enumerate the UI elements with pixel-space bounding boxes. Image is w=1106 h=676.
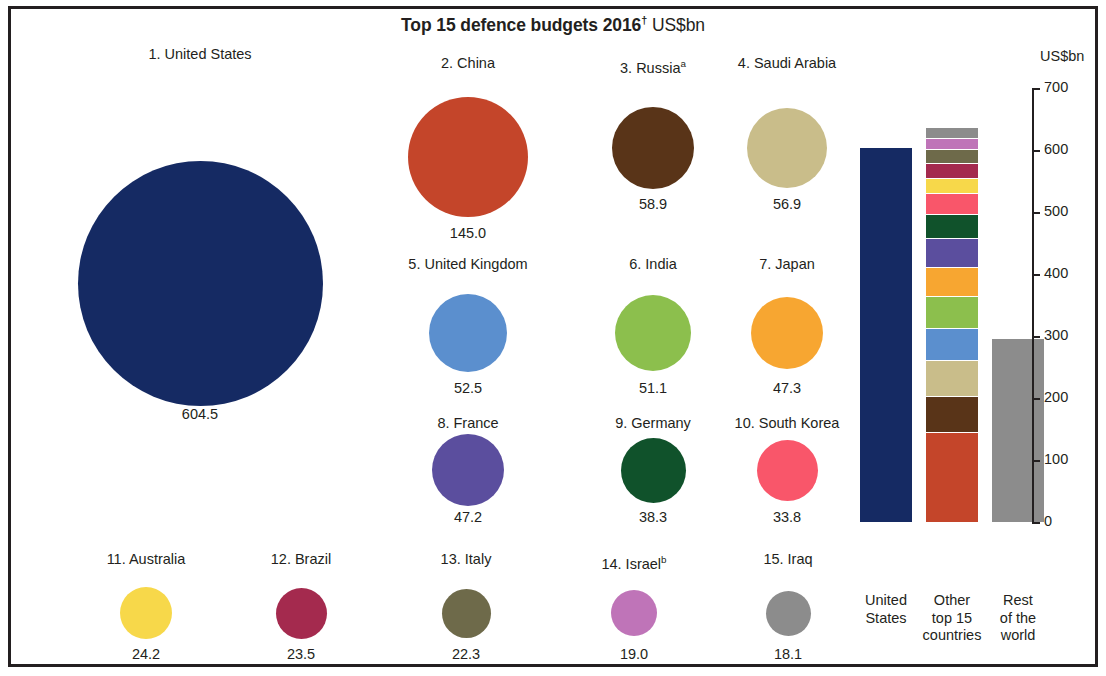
y-axis-tick <box>1032 460 1040 462</box>
bar-caption-line: United <box>854 592 918 610</box>
bar-segment-italy <box>926 149 978 163</box>
border-left-rule <box>8 6 11 667</box>
bubble-value: 51.1 <box>593 380 713 397</box>
y-axis-unit-label: US$bn <box>1040 48 1084 64</box>
bar-caption-line: top 15 <box>920 610 984 628</box>
bubble-circle <box>120 587 172 639</box>
bar-segment-iraq <box>926 127 978 138</box>
bar-segment-brazil <box>926 163 978 178</box>
bar-segment-united-kingdom <box>926 328 978 361</box>
bar-segment-russia <box>926 396 978 433</box>
bar-segment-united-states <box>860 147 912 522</box>
bar-segment-germany <box>926 214 978 238</box>
y-axis-tick <box>1032 88 1040 90</box>
y-axis-tick-label: 300 <box>1044 328 1068 342</box>
bubble-value: 33.8 <box>727 509 847 526</box>
bar-caption-line: Rest <box>986 592 1050 610</box>
bubble-value: 604.5 <box>140 406 260 423</box>
bubble-circle <box>766 591 811 636</box>
bar-segment-israel <box>926 138 978 150</box>
bar-segment-saudi-arabia <box>926 360 978 395</box>
stacked-bar-chart: UnitedStatesOthertop 15countriesRestof t… <box>848 44 1098 644</box>
bubble-circle <box>615 295 691 371</box>
bar-caption-other: Othertop 15countries <box>920 592 984 645</box>
bubble-value: 47.2 <box>408 509 528 526</box>
bar-caption-rest: Restof theworld <box>986 592 1050 645</box>
bubble-value: 18.1 <box>728 646 848 663</box>
bar-caption-us: UnitedStates <box>854 592 918 627</box>
bubble-value: 58.9 <box>593 196 713 213</box>
y-axis-tick-label: 400 <box>1044 266 1068 280</box>
y-axis-tick-label: 500 <box>1044 204 1068 218</box>
y-axis-tick <box>1032 336 1040 338</box>
bubble-value: 47.3 <box>727 380 847 397</box>
chart-title: Top 15 defence budgets 2016† US$bn <box>0 14 1106 36</box>
bubble-circle <box>276 588 327 639</box>
bubble-value: 38.3 <box>593 509 713 526</box>
bubble-circle <box>429 294 507 372</box>
chart-title-unit: US$bn <box>652 15 705 35</box>
bubble-value: 23.5 <box>241 646 361 663</box>
bubble-united-states: 1. United States <box>90 46 310 63</box>
bubble-circle <box>751 297 823 369</box>
bubble-circle <box>78 161 323 406</box>
bubble-value: 22.3 <box>406 646 526 663</box>
bar-caption-line: Other <box>920 592 984 610</box>
bar-segment-south-korea <box>926 193 978 214</box>
bubble-value: 56.9 <box>727 196 847 213</box>
bubble-label: 1. United States <box>90 46 310 63</box>
bubble-circle <box>621 438 686 503</box>
y-axis-line <box>1032 88 1034 522</box>
chart-title-dagger: † <box>641 14 647 26</box>
bar-caption-line: world <box>986 627 1050 645</box>
bar-segment-india <box>926 296 978 328</box>
y-axis-tick-label: 0 <box>1044 514 1052 528</box>
bar-segment-rest-of-the-world <box>992 338 1044 522</box>
bubble-circle <box>442 589 491 638</box>
bubble-circle <box>747 108 827 188</box>
y-axis-tick-label: 200 <box>1044 390 1068 404</box>
footnote-marker: b <box>661 554 666 565</box>
bar-segment-australia <box>926 178 978 193</box>
bar-rest <box>992 338 1044 522</box>
border-bottom-rule <box>8 664 1098 667</box>
bubble-value: 24.2 <box>86 646 206 663</box>
y-axis-tick-label: 600 <box>1044 142 1068 156</box>
bar-us <box>860 147 912 522</box>
bubble-value: 52.5 <box>408 380 528 397</box>
y-axis-tick-label: 700 <box>1044 80 1068 94</box>
y-axis-tick <box>1032 398 1040 400</box>
y-axis-tick <box>1032 212 1040 214</box>
bubble-circle <box>611 590 657 636</box>
y-axis-tick <box>1032 522 1040 524</box>
bar-segment-france <box>926 238 978 267</box>
bubble-circle <box>432 434 504 506</box>
y-axis-tick <box>1032 274 1040 276</box>
bubble-circle <box>757 440 818 501</box>
chart-title-main: Top 15 defence budgets 2016 <box>401 15 641 35</box>
bubble-circle <box>408 97 528 217</box>
bar-caption-line: of the <box>986 610 1050 628</box>
bubble-circle <box>612 107 694 189</box>
y-axis-tick <box>1032 150 1040 152</box>
bubble-value: 19.0 <box>574 646 694 663</box>
bar-other <box>926 127 978 523</box>
border-top-rule <box>8 6 1098 9</box>
bar-caption-line: countries <box>920 627 984 645</box>
y-axis-tick-label: 100 <box>1044 452 1068 466</box>
bar-caption-line: States <box>854 610 918 628</box>
bubble-value: 145.0 <box>408 225 528 242</box>
infographic-root: Top 15 defence budgets 2016† US$bn 1. Un… <box>0 0 1106 676</box>
bar-segment-china <box>926 432 978 522</box>
bar-segment-japan <box>926 267 978 296</box>
